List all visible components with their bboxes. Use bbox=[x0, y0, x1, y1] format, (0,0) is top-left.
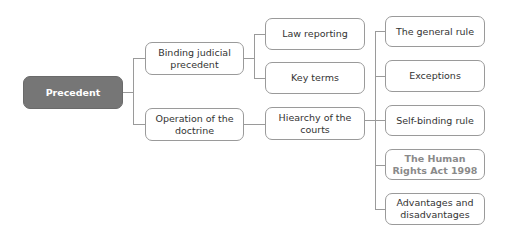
connector bbox=[375, 165, 385, 166]
node-human-rights-act-1998: The Human Rights Act 1998 bbox=[385, 149, 485, 180]
node-advantages-and-disadvantages: Advantages and disadvantages bbox=[385, 193, 485, 225]
connector bbox=[244, 58, 254, 59]
node-law-reporting: Law reporting bbox=[265, 18, 365, 50]
connector bbox=[254, 34, 265, 35]
node-binding-judicial-precedent: Binding judicial precedent bbox=[145, 42, 244, 75]
connector bbox=[254, 78, 265, 79]
node-operation-of-the-doctrine: Operation of the doctrine bbox=[145, 108, 244, 141]
node-precedent: Precedent bbox=[23, 76, 123, 109]
connector bbox=[375, 120, 385, 121]
connector bbox=[365, 120, 375, 121]
connector bbox=[133, 58, 145, 59]
connector bbox=[244, 124, 265, 125]
connector bbox=[375, 209, 385, 210]
connector bbox=[123, 92, 133, 93]
node-key-terms: Key terms bbox=[265, 62, 365, 94]
connector bbox=[133, 58, 134, 125]
connector bbox=[133, 124, 145, 125]
node-the-general-rule: The general rule bbox=[385, 16, 485, 47]
node-self-binding-rule: Self-binding rule bbox=[385, 105, 485, 136]
connector bbox=[375, 76, 385, 77]
connector bbox=[375, 31, 385, 32]
node-hierarchy-of-the-courts: Hiearchy of the courts bbox=[265, 107, 365, 140]
connector bbox=[254, 34, 255, 79]
node-exceptions: Exceptions bbox=[385, 60, 485, 92]
